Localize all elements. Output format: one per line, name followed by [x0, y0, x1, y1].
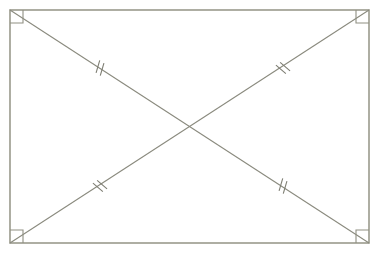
tick-mark-upper-right-segment [276, 62, 290, 73]
tick-mark-lower-right-segment [279, 178, 287, 193]
tick-mark-lower-left-segment [93, 180, 107, 191]
right-angle-marker-bottom-right [356, 230, 369, 243]
right-angle-marker-bottom-left [10, 230, 23, 243]
geometry-diagram-canvas [0, 0, 380, 254]
rectangle-diagonals-figure [0, 0, 380, 254]
right-angle-marker-top-right [356, 10, 369, 23]
right-angle-marker-top-left [10, 10, 23, 23]
